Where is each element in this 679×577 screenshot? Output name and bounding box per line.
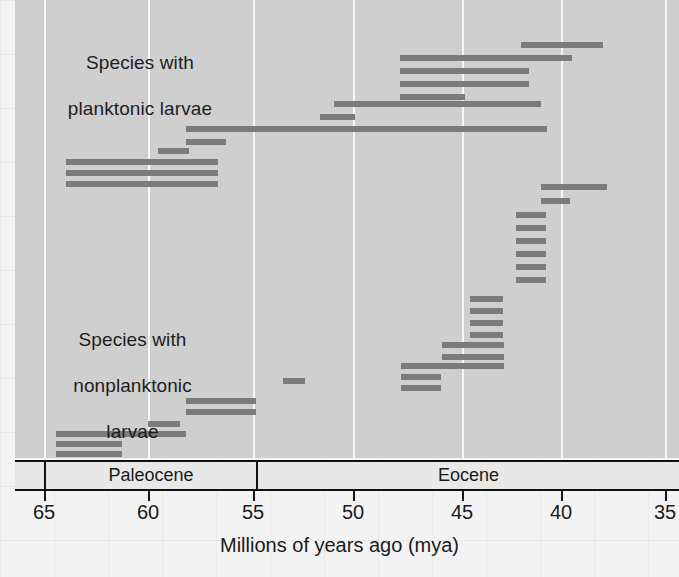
range-bar xyxy=(186,139,226,145)
tick-mark-40 xyxy=(561,491,563,501)
tick-label-35: 35 xyxy=(654,501,676,524)
epoch-label: Paleocene xyxy=(108,465,193,486)
range-bar xyxy=(470,308,503,314)
range-bar xyxy=(401,374,441,380)
range-bar xyxy=(400,68,529,74)
gridline-35 xyxy=(665,0,667,458)
range-bar xyxy=(442,342,504,348)
range-bar xyxy=(516,238,546,244)
nonplanktonic-label-line3: larvae xyxy=(106,421,158,442)
range-bar xyxy=(66,159,218,165)
group-label-nonplanktonic: Species with nonplanktonic larvae xyxy=(25,305,240,443)
planktonic-label-line1: Species with xyxy=(86,52,194,73)
range-bar xyxy=(470,320,503,326)
nonplanktonic-label-line2: nonplanktonic xyxy=(73,375,192,396)
range-bar xyxy=(66,170,218,176)
tick-mark-35 xyxy=(665,491,667,501)
epoch-paleocene: Paleocene xyxy=(44,462,256,489)
tick-mark-45 xyxy=(462,491,464,501)
range-bar xyxy=(400,94,465,100)
range-bar xyxy=(400,55,572,61)
range-bar xyxy=(401,363,504,369)
range-bar xyxy=(516,225,546,231)
range-bar xyxy=(186,126,547,132)
tick-label-50: 50 xyxy=(342,501,364,524)
tick-label-65: 65 xyxy=(33,501,55,524)
gridline-50 xyxy=(353,0,355,458)
range-bar xyxy=(516,212,546,218)
tick-mark-60 xyxy=(148,491,150,501)
range-bar xyxy=(400,81,529,87)
range-bar xyxy=(401,385,441,391)
range-bar xyxy=(320,114,355,120)
gridline-40 xyxy=(561,0,563,458)
range-bar xyxy=(541,184,607,190)
epoch-label: Eocene xyxy=(438,465,499,486)
tick-mark-50 xyxy=(353,491,355,501)
range-bar xyxy=(56,451,122,457)
range-bar xyxy=(470,332,503,338)
planktonic-label-line2: planktonic larvae xyxy=(68,98,212,119)
nonplanktonic-label-line1: Species with xyxy=(79,329,187,350)
tick-label-60: 60 xyxy=(137,501,159,524)
range-bar xyxy=(334,101,541,107)
epoch-band: PaleoceneEocene xyxy=(15,460,679,491)
x-axis-title: Millions of years ago (mya) xyxy=(0,534,679,557)
tick-label-55: 55 xyxy=(242,501,264,524)
range-bar xyxy=(66,181,218,187)
epoch-eocene: Eocene xyxy=(256,462,679,489)
tick-mark-65 xyxy=(44,491,46,501)
range-bar xyxy=(442,354,504,360)
group-label-planktonic: Species with planktonic larvae xyxy=(25,28,255,120)
tick-label-45: 45 xyxy=(451,501,473,524)
range-bar xyxy=(541,198,570,204)
range-bar xyxy=(470,296,503,302)
range-bar xyxy=(516,251,546,257)
axis-ticks: 65605550454035 xyxy=(0,491,679,531)
range-bar xyxy=(521,42,603,48)
tick-mark-55 xyxy=(253,491,255,501)
chart-plot-area: Species with planktonic larvae Species w… xyxy=(15,0,679,458)
range-bar xyxy=(516,277,546,283)
range-bar xyxy=(283,378,305,384)
range-bar xyxy=(516,264,546,270)
tick-label-40: 40 xyxy=(550,501,572,524)
range-bar xyxy=(158,148,189,154)
